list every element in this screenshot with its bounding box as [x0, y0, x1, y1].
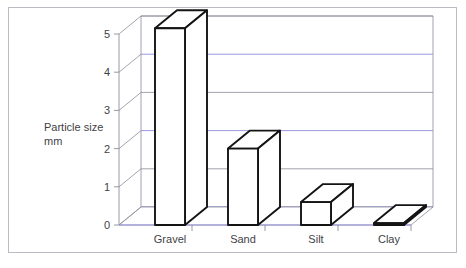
cat-label-silt: Silt — [308, 233, 323, 245]
depth-connector-1 — [119, 169, 141, 187]
cat-label-gravel: Gravel — [154, 233, 186, 245]
bar-clay-front-face — [374, 223, 404, 225]
y-tick-label-0: 0 — [104, 219, 110, 231]
bar-gravel-front-face — [155, 28, 185, 225]
y-tick-label-2: 2 — [104, 143, 110, 155]
y-tick-labels: 0 1 2 3 4 5 — [104, 28, 110, 231]
bar-sand[interactable] — [228, 131, 280, 225]
y-axis-title: Particle size mm — [44, 121, 103, 147]
cat-label-sand: Sand — [230, 233, 256, 245]
depth-connector-2 — [119, 131, 141, 149]
bar-gravel[interactable] — [155, 10, 207, 225]
y-tick-label-1: 1 — [104, 181, 110, 193]
bar-silt-front-face — [301, 202, 331, 225]
category-labels: Gravel Sand Silt Clay — [154, 233, 401, 245]
bar-sand-front-face — [228, 149, 258, 225]
y-tick-label-5: 5 — [104, 28, 110, 40]
bar-sand-side-face — [258, 131, 280, 225]
y-axis-depth-edge — [119, 16, 141, 34]
y-tick-label-3: 3 — [104, 104, 110, 116]
y-tick-label-4: 4 — [104, 66, 110, 78]
cat-label-clay: Clay — [378, 233, 401, 245]
y-axis-title-line2: mm — [44, 135, 62, 147]
particle-size-3d-bar-chart: 0 1 2 3 4 5 Particle size mm — [0, 0, 466, 268]
bar-gravel-side-face — [185, 10, 207, 225]
value-axis — [114, 16, 141, 225]
y-axis-title-line1: Particle size — [44, 121, 103, 133]
depth-connector-4 — [119, 54, 141, 72]
figure-page: 0 1 2 3 4 5 Particle size mm — [0, 0, 466, 268]
depth-connector-3 — [119, 92, 141, 110]
